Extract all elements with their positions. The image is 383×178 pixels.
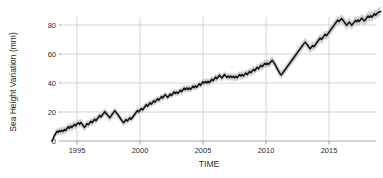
y-tick-label: 0 — [52, 137, 56, 146]
y-tick-label: 60 — [48, 50, 56, 59]
x-tick-label: 2000 — [132, 146, 149, 155]
y-tick-label: 80 — [48, 21, 56, 30]
x-tick-label: 2015 — [321, 146, 338, 155]
y-tick-label: 40 — [48, 79, 56, 88]
chart-canvas: 020406080 19952000200520102015 TIME Sea … — [0, 0, 383, 178]
sea-level-chart-figure: 020406080 19952000200520102015 TIME Sea … — [0, 0, 383, 178]
y-axis-tick-labels: 020406080 — [48, 21, 56, 146]
x-tick-label: 1995 — [69, 146, 86, 155]
y-tick-label: 20 — [48, 108, 56, 117]
y-axis-title: Sea Height Variation (mm) — [8, 32, 18, 132]
x-axis-tick-labels: 19952000200520102015 — [69, 146, 338, 155]
uncertainty-band — [52, 7, 381, 143]
x-axis-title: TIME — [199, 159, 220, 169]
x-tick-label: 2005 — [195, 146, 212, 155]
x-tick-label: 2010 — [258, 146, 275, 155]
